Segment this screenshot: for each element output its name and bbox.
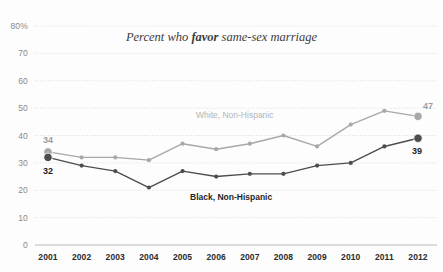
- data-point-0-2003: [113, 155, 117, 159]
- x-axis-tick-2008: 2008: [266, 252, 300, 262]
- data-point-1-2002: [80, 164, 84, 168]
- data-point-0-2002: [80, 155, 84, 159]
- x-axis-tick-2009: 2009: [300, 252, 334, 262]
- data-point-1-2004: [147, 185, 151, 189]
- data-point-0-2012: [414, 112, 422, 120]
- x-axis-tick-2005: 2005: [166, 252, 200, 262]
- data-point-1-2001: [44, 153, 52, 161]
- chart-title-emphasis: favor: [191, 30, 218, 44]
- data-point-1-2008: [281, 172, 285, 176]
- y-axis-tick-30: 30: [2, 158, 28, 168]
- data-point-0-2011: [382, 109, 386, 113]
- data-point-0-2008: [281, 133, 285, 137]
- x-axis-tick-2003: 2003: [98, 252, 132, 262]
- data-point-0-2010: [349, 122, 353, 126]
- y-axis-tick-80: 80%: [2, 21, 28, 31]
- start-value-white: 34: [43, 135, 53, 145]
- y-axis-tick-70: 70: [2, 48, 28, 58]
- y-axis-tick-10: 10: [2, 213, 28, 223]
- end-value-black: 39: [412, 146, 422, 156]
- data-point-0-2004: [147, 158, 151, 162]
- y-axis-tick-50: 50: [2, 103, 28, 113]
- x-axis-tick-2011: 2011: [367, 252, 401, 262]
- chart-container: Percent who favor same-sex marriage Whit…: [0, 0, 443, 272]
- x-axis-tick-2002: 2002: [65, 252, 99, 262]
- y-axis-tick-40: 40: [2, 131, 28, 141]
- data-point-1-2006: [214, 174, 218, 178]
- x-axis-tick-2012: 2012: [401, 252, 435, 262]
- data-point-0-2005: [180, 142, 184, 146]
- data-point-1-2011: [382, 144, 386, 148]
- series-label-black-non-hispanic: Black, Non-Hispanic: [190, 192, 272, 202]
- data-point-0-2009: [315, 144, 319, 148]
- data-point-1-2003: [113, 169, 117, 173]
- x-axis-tick-2006: 2006: [199, 252, 233, 262]
- chart-title: Percent who favor same-sex marriage: [0, 30, 443, 45]
- y-axis-tick-0: 0: [2, 240, 28, 250]
- data-point-1-2010: [349, 161, 353, 165]
- data-point-1-2007: [248, 172, 252, 176]
- x-axis-tick-2007: 2007: [233, 252, 267, 262]
- end-value-white: 47: [423, 101, 433, 111]
- data-point-0-2007: [248, 142, 252, 146]
- x-axis-tick-2004: 2004: [132, 252, 166, 262]
- y-axis-tick-60: 60: [2, 76, 28, 86]
- data-point-1-2012: [414, 134, 422, 142]
- x-axis-tick-2010: 2010: [334, 252, 368, 262]
- data-point-1-2009: [315, 164, 319, 168]
- x-axis-tick-2001: 2001: [31, 252, 65, 262]
- start-value-black: 32: [43, 166, 53, 176]
- data-point-0-2006: [214, 147, 218, 151]
- y-axis-tick-20: 20: [2, 185, 28, 195]
- data-point-1-2005: [180, 169, 184, 173]
- series-label-white-non-hispanic: White, Non-Hispanic: [196, 110, 273, 120]
